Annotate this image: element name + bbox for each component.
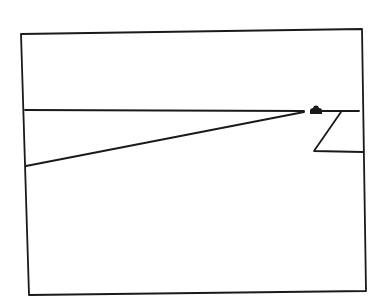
- vehicle-icon: [310, 106, 322, 115]
- sketch-canvas: [0, 0, 382, 308]
- zigzag-road: [314, 112, 363, 152]
- frame-border: [21, 29, 366, 295]
- road-edge-line: [26, 112, 304, 166]
- horizon-line-left: [25, 110, 304, 111]
